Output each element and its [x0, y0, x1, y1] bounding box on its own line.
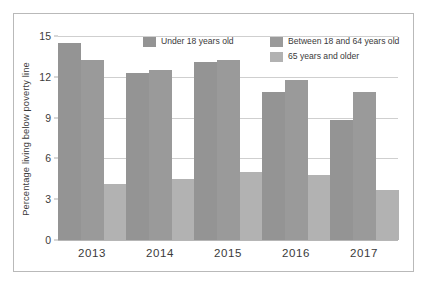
- y-tick-label: 15: [39, 30, 51, 42]
- legend-swatch-icon: [143, 37, 156, 47]
- y-axis-label: Percentage living below poverty line: [21, 62, 31, 216]
- bar-group: [194, 36, 263, 240]
- gridline: [58, 240, 398, 241]
- bar: [172, 179, 195, 240]
- bar: [58, 43, 81, 240]
- bar: [330, 120, 353, 240]
- bar: [194, 62, 217, 240]
- x-tick-label: 2013: [78, 247, 106, 259]
- legend-row: Under 18 years oldBetween 18 and 64 year…: [143, 36, 405, 49]
- bar: [240, 172, 263, 240]
- x-tick-label: 2017: [350, 247, 378, 259]
- legend-label: Between 18 and 64 years old: [288, 36, 399, 47]
- legend-row: 65 years and older: [143, 51, 405, 64]
- y-tick-label: 3: [45, 193, 51, 205]
- bar: [285, 80, 308, 240]
- x-tick-label: 2014: [146, 247, 174, 259]
- legend-label: 65 years and older: [288, 51, 359, 62]
- bar: [81, 60, 104, 240]
- y-tick-label: 0: [45, 234, 51, 246]
- y-axis-label-container: Percentage living below poverty line: [18, 36, 34, 241]
- legend-swatch-icon: [270, 37, 283, 47]
- legend-item[interactable]: 65 years and older: [270, 51, 359, 62]
- y-tick-label: 9: [45, 112, 51, 124]
- legend-item[interactable]: Under 18 years old: [143, 36, 234, 47]
- bar: [104, 184, 127, 240]
- bar-group: [58, 36, 127, 240]
- x-tick-label: 2016: [282, 247, 310, 259]
- bar: [353, 92, 376, 240]
- bar-group: [126, 36, 195, 240]
- chart-figure: Percentage living below poverty line 036…: [0, 0, 427, 288]
- bar: [262, 92, 285, 240]
- plot-area: 03691215 20132014201520162017: [58, 36, 398, 240]
- legend-item[interactable]: Between 18 and 64 years old: [270, 36, 399, 47]
- bar: [376, 190, 399, 240]
- bar: [217, 60, 240, 240]
- legend-swatch-icon: [270, 52, 283, 62]
- x-tick-label: 2015: [214, 247, 242, 259]
- y-tick-label: 12: [39, 71, 51, 83]
- bar-group: [262, 36, 331, 240]
- y-tick-label: 6: [45, 152, 51, 164]
- bar: [126, 73, 149, 240]
- bar: [308, 175, 331, 240]
- bar-series-container: [58, 36, 398, 240]
- bar-group: [330, 36, 399, 240]
- legend-label: Under 18 years old: [161, 36, 234, 47]
- bar: [149, 70, 172, 240]
